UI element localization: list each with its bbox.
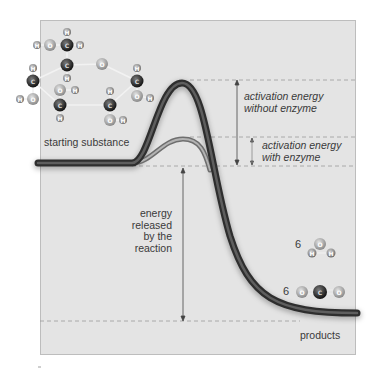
svg-text:O: O	[299, 289, 304, 296]
svg-text:C: C	[65, 62, 70, 69]
svg-text:H: H	[34, 42, 39, 49]
svg-text:C: C	[65, 42, 70, 49]
energy-released-line-1: energy	[112, 208, 172, 220]
svg-text:C: C	[31, 78, 36, 85]
svg-text:H: H	[147, 95, 152, 102]
svg-text:H: H	[57, 115, 62, 122]
activation-with-line-2: with enzyme	[262, 152, 341, 164]
activation-without-line-1: activation energy	[244, 91, 323, 103]
svg-text:O: O	[99, 61, 104, 68]
svg-text:O: O	[317, 241, 322, 248]
svg-text:C: C	[108, 102, 113, 109]
svg-text:O: O	[107, 117, 112, 124]
activation-without-label: activation energy without enzyme	[244, 91, 323, 114]
co2-count: 6	[283, 286, 289, 298]
svg-text:H: H	[64, 75, 69, 82]
svg-text:H: H	[72, 87, 77, 94]
svg-text:O: O	[336, 289, 341, 296]
svg-text:H: H	[77, 42, 82, 49]
svg-text:C: C	[58, 102, 63, 109]
stray-mark	[38, 366, 41, 368]
svg-text:O: O	[47, 42, 52, 49]
svg-text:C: C	[318, 289, 323, 296]
water-count: 6	[295, 239, 301, 251]
reaction-curves	[38, 83, 357, 315]
svg-text:H: H	[328, 250, 333, 257]
co2-molecule: OCO	[296, 285, 345, 299]
energy-released-label: energy released by the reaction	[112, 208, 172, 254]
svg-text:C: C	[135, 78, 140, 85]
activation-with-line-1: activation energy	[262, 140, 341, 152]
svg-text:H: H	[134, 65, 139, 72]
svg-text:O: O	[134, 93, 139, 100]
svg-text:H: H	[64, 29, 69, 36]
curve-without-enzyme	[38, 83, 357, 313]
svg-text:O: O	[57, 87, 62, 94]
activation-without-line-2: without enzyme	[244, 103, 323, 115]
svg-text:H: H	[107, 88, 112, 95]
activation-with-label: activation energy with enzyme	[262, 140, 341, 163]
energy-released-line-3: by the	[112, 231, 172, 243]
oxygen-atoms	[27, 39, 143, 126]
water-molecule: OHH	[308, 238, 336, 258]
svg-text:H: H	[120, 117, 125, 124]
svg-text:O: O	[30, 96, 35, 103]
diagram-graphics: HHH HHH HHH HHH OOO OOO CCC CCC OHH	[0, 0, 377, 376]
svg-text:H: H	[17, 96, 22, 103]
energy-released-line-4: reaction	[112, 243, 172, 255]
svg-text:H: H	[30, 65, 35, 72]
energy-diagram: HHH HHH HHH HHH OOO OOO CCC CCC OHH	[0, 0, 377, 376]
glucose-molecule: HHH HHH HHH HHH OOO OOO CCC CCC	[16, 28, 154, 126]
starting-substance-label: starting substance	[44, 137, 129, 149]
products-label: products	[300, 330, 340, 342]
svg-text:H: H	[309, 250, 314, 257]
